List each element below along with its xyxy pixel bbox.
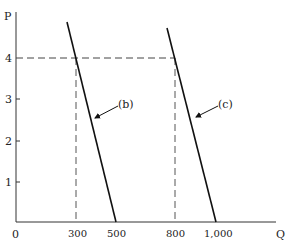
y-tick-label-3: 3 (5, 93, 12, 106)
arrow-c-icon (196, 106, 218, 117)
x-axis-label: Q (276, 228, 285, 240)
y-tick-label-4: 4 (5, 52, 12, 65)
demand-curve-c (167, 28, 216, 222)
curve-b-label: (b) (118, 98, 134, 111)
x-tick-label-300: 300 (68, 228, 87, 239)
demand-curve-b (67, 22, 116, 222)
demand-chart: P Q 0 4 3 2 1 300 500 800 1,000 (b) (c) (0, 0, 289, 240)
x-tick-label-800: 800 (166, 228, 185, 239)
origin-label: 0 (12, 228, 19, 240)
curve-c-label: (c) (218, 98, 233, 111)
y-tick-label-1: 1 (5, 176, 12, 189)
arrow-b-icon (95, 106, 118, 118)
x-tick-label-1000: 1,000 (204, 228, 233, 239)
x-tick-label-500: 500 (107, 228, 126, 239)
y-tick-label-2: 2 (5, 135, 12, 148)
y-axis-label: P (4, 10, 12, 23)
